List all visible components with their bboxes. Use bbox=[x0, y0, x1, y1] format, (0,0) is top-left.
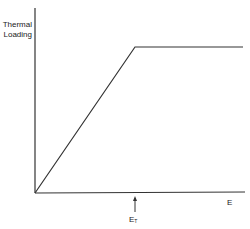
x-axis-label: E bbox=[227, 198, 232, 207]
thermal-loading-curve bbox=[35, 47, 243, 193]
threshold-label: ET bbox=[129, 215, 137, 224]
y-axis-label-line2: Loading bbox=[2, 30, 32, 40]
threshold-label-sub: T bbox=[134, 218, 137, 224]
x-axis bbox=[35, 192, 245, 193]
y-axis-label-line1: Thermal bbox=[2, 20, 32, 30]
chart-canvas bbox=[0, 0, 250, 229]
threshold-arrow-head bbox=[133, 196, 137, 201]
y-axis-label: Thermal Loading bbox=[2, 20, 32, 40]
